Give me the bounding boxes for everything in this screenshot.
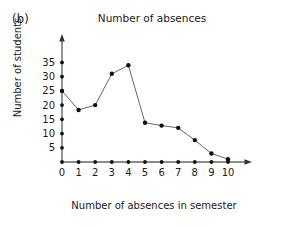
x-tick-label: 1 <box>75 167 81 178</box>
x-tick-marker <box>210 160 214 164</box>
data-point-marker <box>76 108 80 112</box>
data-series-markers <box>60 63 230 161</box>
x-tick-label: 2 <box>92 167 98 178</box>
figure-panel: (b) Number of absences Number of student… <box>0 0 286 227</box>
data-point-marker <box>60 89 64 93</box>
x-tick-label: 7 <box>175 167 181 178</box>
x-tick-marker <box>60 160 64 164</box>
y-tick-label: 5 <box>49 142 55 153</box>
data-point-marker <box>226 157 230 161</box>
y-tick-marker <box>60 132 64 136</box>
x-tick-label: 10 <box>222 167 235 178</box>
data-point-marker <box>126 63 130 67</box>
line-chart-plot: 5101520253035 012345678910 <box>0 0 286 227</box>
y-tick-marker <box>60 61 64 65</box>
x-tick-label: 4 <box>125 167 131 178</box>
y-axis-ticks: 5101520253035 <box>42 57 64 153</box>
x-tick-marker <box>110 160 114 164</box>
x-tick-label: 3 <box>109 167 115 178</box>
series-polyline <box>62 65 228 159</box>
y-tick-label: 20 <box>42 100 55 111</box>
x-axis-arrow-icon <box>245 159 253 165</box>
y-tick-label: 30 <box>42 71 55 82</box>
x-tick-label: 8 <box>192 167 198 178</box>
x-tick-label: 6 <box>158 167 164 178</box>
y-axis-arrow-icon <box>59 34 65 42</box>
x-tick-marker <box>126 160 130 164</box>
y-tick-label: 15 <box>42 114 55 125</box>
y-tick-marker <box>60 117 64 121</box>
y-tick-label: 10 <box>42 128 55 139</box>
x-tick-marker <box>143 160 147 164</box>
data-point-marker <box>93 103 97 107</box>
x-tick-marker <box>160 160 164 164</box>
y-tick-marker <box>60 103 64 107</box>
y-tick-label: 35 <box>42 57 55 68</box>
data-series-line <box>62 65 228 159</box>
y-tick-marker <box>60 75 64 79</box>
axis-lines <box>59 34 252 165</box>
x-tick-marker <box>193 160 197 164</box>
x-tick-marker <box>176 160 180 164</box>
x-tick-label: 9 <box>208 167 214 178</box>
data-point-marker <box>193 138 197 142</box>
y-tick-marker <box>60 146 64 150</box>
x-tick-marker <box>93 160 97 164</box>
data-point-marker <box>159 123 163 127</box>
data-point-marker <box>110 72 114 76</box>
x-tick-label: 0 <box>59 167 65 178</box>
x-tick-marker <box>77 160 81 164</box>
data-point-marker <box>176 126 180 130</box>
data-point-marker <box>209 151 213 155</box>
data-point-marker <box>143 121 147 125</box>
y-tick-label: 25 <box>42 85 55 96</box>
x-tick-label: 5 <box>142 167 148 178</box>
x-axis-ticks: 012345678910 <box>59 160 235 178</box>
